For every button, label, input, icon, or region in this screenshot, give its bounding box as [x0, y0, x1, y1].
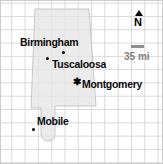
city-label-mobile: Mobile	[37, 116, 68, 127]
city-label-birmingham: Birmingham	[20, 37, 78, 48]
scale-bar-label: 35 mi	[124, 51, 150, 62]
alabama-state-map: Birmingham Tuscaloosa Montgomery ✱ Mobil…	[0, 0, 163, 164]
city-label-tuscaloosa: Tuscaloosa	[52, 59, 106, 70]
city-label-montgomery: Montgomery	[82, 79, 142, 90]
city-dot-mobile-icon	[32, 128, 35, 131]
city-dot-tuscaloosa-icon	[46, 57, 49, 60]
north-label: N	[134, 16, 142, 28]
capital-star-icon: ✱	[73, 77, 81, 87]
city-dot-birmingham-icon	[62, 51, 65, 54]
scale-bar	[131, 45, 144, 48]
